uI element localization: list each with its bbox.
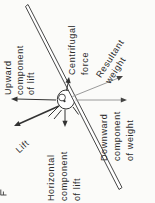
label-horizontal-component-of-lift: Horizontal component of lift — [45, 151, 84, 201]
scanned-figure-page: Upward component of lift Lift Horizontal… — [0, 0, 155, 203]
caption-fragment — [1, 190, 7, 196]
downward-component-arrow — [76, 97, 128, 102]
upward-component-arrow — [11, 96, 56, 101]
label-downward-component-of-weight: Downward component of weight — [98, 111, 137, 161]
label-upward-component-of-lift: Upward component of lift — [3, 45, 38, 95]
forces-in-turn-diagram: Upward component of lift Lift Horizontal… — [0, 0, 155, 203]
label-centrifugal-force: Centrifugal force — [66, 25, 92, 75]
horizontal-component-arrow — [62, 110, 67, 128]
lift-arrow — [14, 106, 59, 126]
